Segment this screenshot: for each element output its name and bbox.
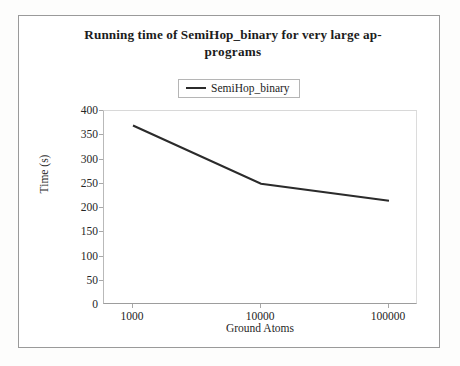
x-axis-title: Ground Atoms [103, 322, 417, 334]
y-tick-label-250: 250 [54, 177, 98, 189]
line-series-semihop-binary [133, 126, 389, 201]
y-tick-label-50: 50 [54, 274, 98, 286]
y-tick-label-400: 400 [54, 104, 98, 116]
y-tick-label-0: 0 [54, 298, 98, 310]
x-tick-mark-1000 [132, 304, 133, 308]
x-tick-mark-100000 [388, 304, 389, 308]
x-tick-label-1000: 1000 [87, 310, 177, 322]
figure-canvas: Running time of SemiHop_binary for very … [0, 0, 460, 366]
legend-label-semihop-binary: SemiHop_binary [211, 82, 290, 94]
chart-legend: SemiHop_binary [178, 79, 300, 98]
y-tick-label-200: 200 [54, 201, 98, 213]
y-tick-label-150: 150 [54, 225, 98, 237]
chart-title-line-1: Running time of SemiHop_binary for very … [48, 26, 418, 43]
chart-title-line-2: programs [48, 43, 418, 60]
x-tick-label-100000: 100000 [343, 310, 433, 322]
legend-line-swatch-semihop-binary [186, 87, 206, 89]
x-tick-mark-10000 [260, 304, 261, 308]
x-tick-label-10000: 10000 [215, 310, 305, 322]
y-axis-tick-labels: 400 350 300 250 200 150 100 50 0 [52, 110, 98, 304]
chart-title: Running time of SemiHop_binary for very … [48, 26, 418, 60]
series-plot [104, 111, 418, 305]
y-tick-label-300: 300 [54, 153, 98, 165]
y-tick-label-350: 350 [54, 128, 98, 140]
plot-area [103, 110, 417, 304]
y-axis-title: Time (s) [38, 124, 50, 224]
y-tick-label-100: 100 [54, 250, 98, 262]
